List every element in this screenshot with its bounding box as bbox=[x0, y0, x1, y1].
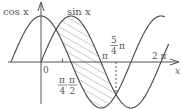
five-pi-over-4-num: 5 bbox=[111, 35, 117, 45]
origin-label: 0 bbox=[43, 65, 49, 75]
pi-over-2-num: π bbox=[69, 75, 75, 85]
sin-cos-area-diagram: cos x sin x x 0 π 4 π 2 π 5 4 π 2 π bbox=[0, 0, 192, 109]
five-pi-over-4-den: 4 bbox=[111, 46, 117, 56]
five-pi-over-4-suffix: π bbox=[119, 41, 125, 51]
pi-over-4-den: 4 bbox=[60, 86, 66, 96]
x-axis-label: x bbox=[175, 66, 180, 76]
pi-label: π bbox=[102, 51, 108, 61]
cos-label: cos x bbox=[3, 6, 29, 17]
two-pi-label: 2 π bbox=[152, 51, 167, 61]
sin-label: sin x bbox=[67, 6, 91, 17]
pi-over-4-num: π bbox=[59, 75, 65, 85]
pi-over-2-den: 2 bbox=[70, 86, 76, 96]
